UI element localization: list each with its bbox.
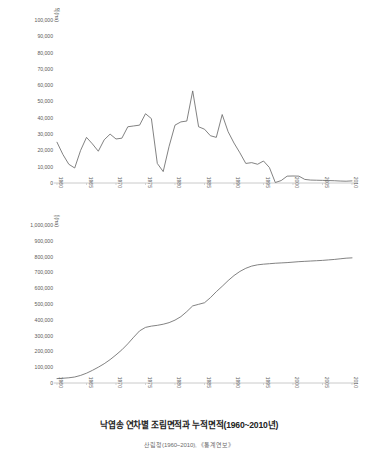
y-tick-label: 20,000 [37, 147, 53, 153]
x-tick-label: 2000 [294, 177, 300, 188]
y-tick-label: 30,000 [37, 131, 53, 137]
figure-source: 산림청(1960~2010), 《통계연보》 [0, 440, 378, 449]
y-tick-label: 10,000 [37, 164, 53, 170]
x-tick-label: 1990 [235, 177, 241, 188]
data-series-line [57, 258, 352, 379]
y-tick-label: 100,000 [35, 364, 54, 370]
x-tick-label: 1965 [88, 177, 94, 188]
y-tick-label: 80,000 [37, 50, 53, 56]
x-tick-label: 1980 [176, 177, 182, 188]
y-tick-label: 0 [50, 180, 53, 186]
x-tick-label: 1975 [147, 177, 153, 188]
y-tick-label: 70,000 [37, 66, 53, 72]
data-series-line [57, 91, 352, 183]
y-tick-label: 200,000 [35, 348, 54, 354]
x-tick-label: 2010 [353, 177, 359, 188]
chart-cumulative-area: 1,000,000900,000800,000700,000600,000500… [0, 215, 378, 413]
chart-annual-afforestation-area: 100,00090,00080,00070,00060,00050,00040,… [0, 8, 378, 213]
figure-title: 낙엽송 연차별 조림면적과 누적면적(1960~2010년) [0, 418, 378, 430]
y-tick-label: 900,000 [35, 238, 54, 244]
y-tick-label: 800,000 [35, 254, 54, 260]
x-tick-label: 1985 [206, 377, 212, 388]
x-tick-label: 1970 [117, 377, 123, 388]
x-tick-label: 2000 [294, 377, 300, 388]
y-tick-label: 60,000 [37, 82, 53, 88]
y-tick-label: 700,000 [35, 269, 54, 275]
x-tick-label: 1970 [117, 177, 123, 188]
y-axis-title: 낙엽송 누적면적(ha) [53, 215, 61, 227]
y-tick-label: 40,000 [37, 115, 53, 121]
x-tick-label: 1995 [265, 377, 271, 388]
y-tick-label: 100,000 [35, 17, 54, 23]
x-tick-label: 2005 [324, 377, 330, 388]
y-tick-label: 300,000 [35, 333, 54, 339]
x-tick-label: 2010 [353, 377, 359, 388]
x-tick-label: 2005 [324, 177, 330, 188]
chart-annual-svg: 100,00090,00080,00070,00060,00050,00040,… [0, 8, 378, 213]
y-axis-title: 낙엽송 조림면적(ha) [53, 8, 61, 22]
x-tick-label: 1995 [265, 177, 271, 188]
y-tick-label: 50,000 [37, 98, 53, 104]
x-tick-label: 1975 [147, 377, 153, 388]
y-tick-label: 90,000 [37, 33, 53, 39]
y-tick-label: 600,000 [35, 285, 54, 291]
x-tick-label: 1990 [235, 377, 241, 388]
x-tick-label: 1980 [176, 377, 182, 388]
x-tick-label: 1985 [206, 177, 212, 188]
chart-cumulative-svg: 1,000,000900,000800,000700,000600,000500… [0, 215, 378, 413]
y-tick-label: 0 [50, 380, 53, 386]
figure-root: 100,00090,00080,00070,00060,00050,00040,… [0, 0, 378, 468]
y-tick-label: 1,000,000 [30, 222, 53, 228]
x-tick-label: 1960 [58, 177, 64, 188]
y-tick-label: 500,000 [35, 301, 54, 307]
y-tick-label: 400,000 [35, 317, 54, 323]
x-tick-label: 1965 [88, 377, 94, 388]
